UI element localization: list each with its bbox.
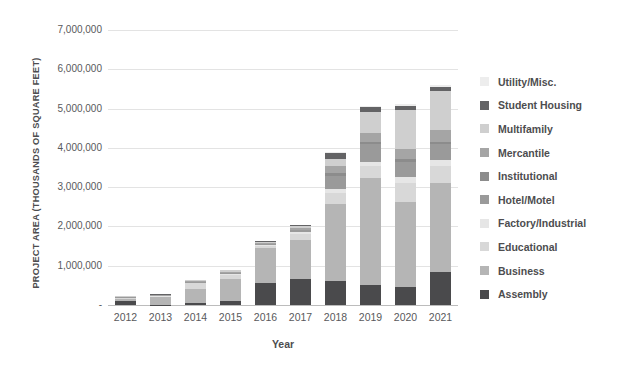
- y-axis-tick-label: 5,000,000: [44, 104, 102, 114]
- bar-segment-assembly: [220, 301, 241, 305]
- x-axis-tick-label-2017: 2017: [281, 311, 321, 323]
- bar-segment-educational: [360, 166, 381, 177]
- bar-2018[interactable]: [325, 152, 346, 305]
- legend-item-multifamily[interactable]: Multifamily: [480, 117, 615, 141]
- legend-item-factory-industrial[interactable]: Factory/Industrial: [480, 212, 615, 236]
- bar-segment-assembly: [430, 272, 451, 305]
- x-axis-tick-label-2014: 2014: [176, 311, 216, 323]
- legend-swatch-icon: [480, 242, 489, 251]
- bar-segment-multifamily: [430, 91, 451, 130]
- legend-label: Assembly: [498, 288, 548, 300]
- bar-segment-business: [325, 204, 346, 281]
- y-axis-tick-label: 2,000,000: [44, 221, 102, 231]
- bar-segment-educational: [430, 166, 451, 183]
- bar-segment-business: [430, 183, 451, 272]
- bar-2017[interactable]: [290, 225, 311, 305]
- legend-label: Utility/Misc.: [498, 76, 556, 88]
- legend-label: Institutional: [498, 170, 558, 182]
- x-axis-tick-label-2012: 2012: [106, 311, 146, 323]
- legend-label: Educational: [498, 241, 558, 253]
- y-axis-tick-label: 7,000,000: [44, 25, 102, 35]
- x-axis-title: Year: [108, 338, 458, 350]
- legend-item-utility-misc[interactable]: Utility/Misc.: [480, 70, 615, 94]
- legend-swatch-icon: [480, 77, 489, 86]
- legend-swatch-icon: [480, 172, 489, 181]
- legend-swatch-icon: [480, 148, 489, 157]
- x-axis-tick-label-2018: 2018: [316, 311, 356, 323]
- bar-segment-business: [150, 297, 171, 304]
- x-axis-tick-labels: 2012201320142015201620172018201920202021: [108, 311, 458, 327]
- bar-segment-business: [360, 178, 381, 285]
- bar-segment-multifamily: [395, 110, 416, 149]
- bar-segment-hotel-motel: [430, 144, 451, 160]
- bar-segment-multifamily: [325, 159, 346, 166]
- legend-swatch-icon: [480, 124, 489, 133]
- bar-segment-mercantile: [395, 149, 416, 159]
- legend-swatch-icon: [480, 290, 489, 299]
- x-axis-tick-label-2016: 2016: [246, 311, 286, 323]
- legend-label: Multifamily: [498, 123, 553, 135]
- bar-segment-assembly: [255, 283, 276, 305]
- y-axis-title: PROJECT AREA (THOUSANDS OF SQUARE FEET): [31, 33, 41, 313]
- bar-segment-hotel-motel: [360, 144, 381, 161]
- bar-segment-assembly: [115, 301, 136, 305]
- bar-segment-mercantile: [430, 130, 451, 141]
- bar-segment-business: [290, 240, 311, 279]
- legend-item-hotel-motel[interactable]: Hotel/Motel: [480, 188, 615, 212]
- x-axis-tick-label-2021: 2021: [421, 311, 461, 323]
- bar-2012[interactable]: [115, 296, 136, 305]
- legend-label: Business: [498, 265, 545, 277]
- y-axis-tick-label: 1,000,000: [44, 261, 102, 271]
- legend-item-educational[interactable]: Educational: [480, 235, 615, 259]
- bar-segment-hotel-motel: [325, 176, 346, 189]
- legend-swatch-icon: [480, 101, 489, 110]
- y-axis-tick-label: 4,000,000: [44, 143, 102, 153]
- bar-2019[interactable]: [360, 106, 381, 306]
- bar-segment-business: [395, 202, 416, 286]
- y-axis-tick-label: -: [44, 300, 102, 310]
- x-axis-line: [108, 305, 458, 306]
- bar-segment-business: [255, 248, 276, 283]
- legend-label: Mercantile: [498, 147, 550, 159]
- legend-item-student-housing[interactable]: Student Housing: [480, 94, 615, 118]
- bar-segment-multifamily: [360, 112, 381, 133]
- bar-segment-assembly: [360, 285, 381, 305]
- legend-label: Factory/Industrial: [498, 217, 586, 229]
- bar-segment-educational: [395, 183, 416, 202]
- bar-2016[interactable]: [255, 241, 276, 305]
- bar-segment-hotel-motel: [395, 162, 416, 178]
- legend-item-business[interactable]: Business: [480, 259, 615, 283]
- bar-segment-business: [220, 279, 241, 301]
- bar-segment-assembly: [185, 303, 206, 305]
- bar-segment-assembly: [325, 281, 346, 305]
- legend-swatch-icon: [480, 266, 489, 275]
- y-axis-tick-labels: -1,000,0002,000,0003,000,0004,000,0005,0…: [44, 30, 102, 306]
- bar-2020[interactable]: [395, 104, 416, 305]
- plot-area: [108, 30, 458, 306]
- stacked-bar-chart: PROJECT AREA (THOUSANDS OF SQUARE FEET) …: [0, 0, 617, 379]
- legend-label: Hotel/Motel: [498, 194, 555, 206]
- legend-item-institutional[interactable]: Institutional: [480, 164, 615, 188]
- legend-item-mercantile[interactable]: Mercantile: [480, 141, 615, 165]
- y-axis-tick-label: 6,000,000: [44, 64, 102, 74]
- bar-segment-mercantile: [325, 166, 346, 173]
- bar-2014[interactable]: [185, 280, 206, 305]
- legend-item-assembly[interactable]: Assembly: [480, 282, 615, 306]
- legend-swatch-icon: [480, 219, 489, 228]
- bar-segment-assembly: [395, 287, 416, 305]
- bar-2015[interactable]: [220, 270, 241, 306]
- bar-2013[interactable]: [150, 294, 171, 305]
- x-axis-tick-label-2015: 2015: [211, 311, 251, 323]
- bar-segment-business: [185, 289, 206, 303]
- x-axis-tick-label-2019: 2019: [351, 311, 391, 323]
- x-axis-tick-label-2013: 2013: [141, 311, 181, 323]
- y-axis-tick-label: 3,000,000: [44, 182, 102, 192]
- bar-segment-educational: [325, 193, 346, 204]
- legend: Utility/Misc.Student HousingMultifamilyM…: [480, 70, 615, 306]
- bar-segment-assembly: [290, 279, 311, 305]
- legend-label: Student Housing: [498, 99, 582, 111]
- legend-swatch-icon: [480, 195, 489, 204]
- x-axis-tick-label-2020: 2020: [386, 311, 426, 323]
- bar-2021[interactable]: [430, 85, 451, 305]
- bar-group: [108, 30, 458, 305]
